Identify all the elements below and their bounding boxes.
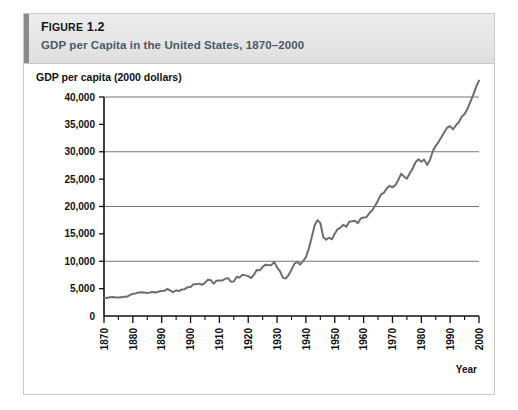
x-tick-label: 1930 [272, 328, 283, 351]
x-tick-label: 1910 [214, 328, 225, 351]
x-tick-label: 1990 [445, 328, 456, 351]
x-tick-label: 1940 [301, 328, 312, 351]
figure-number-label: FIGURE 1.2 [41, 20, 105, 34]
data-line [104, 81, 479, 298]
y-tick-label: 35,000 [64, 119, 95, 130]
x-tick-label: 1950 [330, 328, 341, 351]
gdp-line-chart: 05,00010,00015,00020,00025,00030,00035,0… [24, 64, 494, 394]
x-tick-label: 1890 [156, 328, 167, 351]
x-tick-label: 1870 [99, 328, 110, 351]
y-tick-label: 15,000 [64, 228, 95, 239]
y-tick-label: 10,000 [64, 256, 95, 267]
y-tick-label: 0 [89, 311, 95, 322]
y-tick-label: 25,000 [64, 174, 95, 185]
x-tick-label: 1970 [387, 328, 398, 351]
figure-card: FIGURE 1.2 GDP per Capita in the United … [23, 13, 495, 395]
y-tick-label: 5,000 [70, 283, 95, 294]
y-tick-label: 40,000 [64, 92, 95, 103]
chart-body: GDP per capita (2000 dollars) 05,00010,0… [24, 64, 494, 394]
y-tick-label: 30,000 [64, 146, 95, 157]
x-tick-label: 2000 [474, 328, 485, 351]
figure-header: FIGURE 1.2 GDP per Capita in the United … [24, 14, 494, 64]
figure-number-value: 1.2 [87, 20, 105, 34]
header-accent-bar [24, 14, 29, 63]
figure-title: GDP per Capita in the United States, 187… [41, 39, 304, 51]
y-tick-label: 20,000 [64, 201, 95, 212]
figure-word-first-letter: F [41, 20, 49, 34]
x-axis-title: Year [456, 364, 477, 375]
x-tick-label: 1880 [128, 328, 139, 351]
x-tick-label: 1980 [416, 328, 427, 351]
x-tick-label: 1960 [358, 328, 369, 351]
figure-word-rest: IGURE [49, 21, 83, 33]
x-tick-label: 1920 [243, 328, 254, 351]
x-tick-label: 1900 [185, 328, 196, 351]
